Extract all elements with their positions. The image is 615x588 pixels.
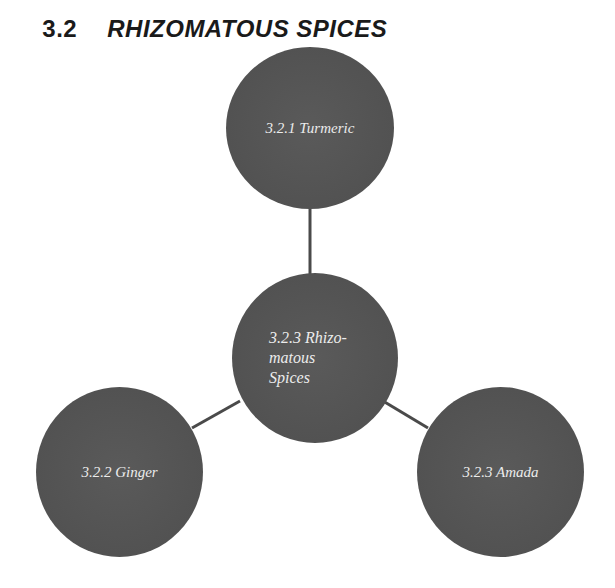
connector-center-amada <box>383 401 428 428</box>
node-ginger: 3.2.2 Ginger <box>36 387 203 557</box>
node-ginger-label: 3.2.2 Ginger <box>81 462 157 482</box>
node-center-rhizomatous-spices: 3.2.3 Rhizo- matous Spices <box>232 273 398 443</box>
node-turmeric-label: 3.2.1 Turmeric <box>266 118 355 138</box>
connector-center-ginger <box>192 401 240 428</box>
node-turmeric: 3.2.1 Turmeric <box>226 47 394 209</box>
node-amada-label: 3.2.3 Amada <box>463 462 539 482</box>
node-center-label: 3.2.3 Rhizo- matous Spices <box>269 328 369 388</box>
node-amada: 3.2.3 Amada <box>417 387 584 557</box>
